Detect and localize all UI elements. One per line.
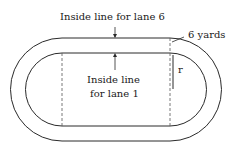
inner-arrowhead (113, 53, 117, 57)
radius-label: r (178, 64, 183, 75)
inner-line-label-2: for lane 1 (90, 88, 139, 99)
width-label: 6 yards (188, 29, 225, 40)
inner-line-label-1: Inside line (87, 74, 140, 85)
outer-line-label: Inside line for lane 6 (60, 11, 165, 22)
outer-arrowhead (113, 34, 117, 38)
